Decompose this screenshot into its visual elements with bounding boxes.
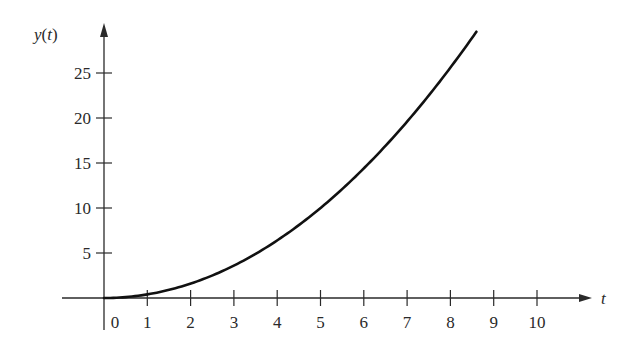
x-tick-label: 7: [403, 313, 412, 332]
y-axis-label: y(t): [32, 25, 58, 44]
x-tick-label: 9: [489, 313, 498, 332]
y-tick-label: 10: [74, 199, 91, 218]
y-tick-label: 25: [74, 64, 91, 83]
x-tick-label: 10: [529, 313, 546, 332]
curve-y-of-t: [104, 32, 476, 298]
x-tick-label: 2: [186, 313, 195, 332]
x-tick-label: 0: [111, 313, 120, 332]
x-tick-label: 3: [230, 313, 239, 332]
x-tick-label: 4: [273, 313, 282, 332]
y-tick-label: 20: [74, 109, 91, 128]
x-tick-label: 8: [446, 313, 455, 332]
chart: ty(t)012345678910510152025: [0, 0, 630, 359]
y-tick-label: 5: [83, 244, 92, 263]
x-axis-label: t: [601, 289, 607, 308]
x-tick-label: 5: [316, 313, 325, 332]
x-tick-label: 6: [360, 313, 369, 332]
y-tick-label: 15: [74, 154, 91, 173]
y-axis-arrow-icon: [100, 23, 108, 37]
x-axis-arrow-icon: [579, 294, 592, 302]
x-tick-label: 1: [143, 313, 152, 332]
